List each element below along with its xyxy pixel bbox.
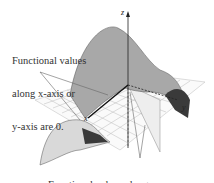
z-axis-arrow-icon — [126, 11, 130, 17]
annotation-axes-zero: Functional values along x-axis or y-axis… — [12, 33, 86, 154]
y-axis-label: y — [182, 103, 186, 112]
surface-plot-figure: z x y Functional values along x-axis or … — [0, 0, 214, 183]
z-axis-label: z — [121, 8, 124, 17]
annotation-diagonal-one: Functional values along y = x are 1. — [48, 157, 148, 183]
